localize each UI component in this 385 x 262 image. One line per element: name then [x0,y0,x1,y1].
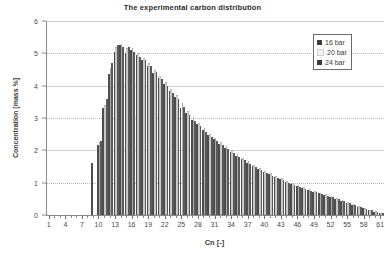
y-tick-label: 6 [12,18,38,25]
x-tick-label: 43 [277,221,285,228]
x-tick-label: 58 [360,221,368,228]
x-tick-mark [137,215,138,218]
x-tick-mark [98,215,99,219]
y-tick-label: 0 [12,212,38,219]
y-tick-label: 5 [12,50,38,57]
x-tick-mark [143,215,144,218]
x-tick-label: 40 [260,221,268,228]
x-tick-label: 19 [144,221,152,228]
x-tick-mark [253,215,254,218]
x-tick-mark [93,215,94,218]
x-tick-mark [104,215,105,218]
x-tick-label: 13 [111,221,119,228]
x-tick-label: 25 [177,221,185,228]
x-tick-label: 55 [343,221,351,228]
legend-label: 16 bar [325,39,345,46]
x-tick-mark [380,215,381,219]
x-tick-mark [336,215,337,218]
x-tick-label: 34 [227,221,235,228]
x-tick-mark [54,215,55,218]
x-tick-mark [115,215,116,219]
x-tick-mark [259,215,260,218]
x-tick-mark [297,215,298,219]
x-tick-mark [132,215,133,219]
x-tick-label: 61 [376,221,384,228]
x-tick-mark [342,215,343,218]
x-tick-mark [215,215,216,219]
x-tick-mark [369,215,370,218]
x-tick-mark [198,215,199,219]
x-tick-mark [126,215,127,218]
x-tick-mark [292,215,293,218]
x-tick-mark [110,215,111,218]
x-tick-mark [303,215,304,218]
x-tick-mark [203,215,204,218]
x-tick-label: 16 [128,221,136,228]
x-tick-mark [76,215,77,218]
x-tick-mark [364,215,365,219]
x-tick-mark [187,215,188,218]
x-tick-mark [60,215,61,218]
x-tick-label: 37 [244,221,252,228]
x-tick-mark [286,215,287,218]
x-tick-mark [209,215,210,218]
legend-swatch-icon [317,60,322,65]
x-tick-mark [71,215,72,218]
legend-item: 24 bar [317,57,347,67]
legend-swatch-icon [317,49,324,56]
y-axis: 0123456 [0,21,46,215]
x-tick-mark [65,215,66,219]
x-tick-mark [176,215,177,218]
x-axis-title: Cn [-] [46,238,383,247]
y-tick-label: 3 [12,115,38,122]
x-tick-mark [226,215,227,218]
x-tick-mark [82,215,83,219]
y-tick-label: 4 [12,82,38,89]
x-tick-mark [248,215,249,219]
x-tick-label: 49 [310,221,318,228]
x-tick-mark [242,215,243,218]
x-tick-mark [170,215,171,218]
x-tick-mark [181,215,182,219]
x-tick-label: 22 [161,221,169,228]
x-tick-label: 10 [95,221,103,228]
chart-title: The experimental carbon distribution [0,3,385,12]
x-tick-mark [325,215,326,218]
y-tick-label: 2 [12,147,38,154]
x-tick-mark [148,215,149,219]
x-tick-label: 1 [47,221,51,228]
x-tick-mark [87,215,88,218]
x-tick-mark [331,215,332,219]
x-tick-label: 4 [63,221,67,228]
x-tick-mark [165,215,166,219]
x-tick-mark [264,215,265,219]
x-tick-label: 52 [327,221,335,228]
x-tick-mark [231,215,232,219]
chart-legend: 16 bar20 bar24 bar [313,34,352,70]
y-tick-label: 1 [12,179,38,186]
chart-figure: The experimental carbon distribution Con… [0,0,385,262]
x-tick-label: 28 [194,221,202,228]
x-tick-mark [358,215,359,218]
x-tick-mark [121,215,122,218]
x-tick-label: 46 [293,221,301,228]
x-tick-mark [314,215,315,219]
x-tick-mark [353,215,354,218]
x-tick-mark [375,215,376,218]
x-tick-mark [308,215,309,218]
x-tick-mark [159,215,160,218]
x-tick-mark [192,215,193,218]
bar [91,163,93,215]
x-tick-mark [347,215,348,219]
x-tick-mark [49,215,50,219]
x-tick-mark [281,215,282,219]
x-tick-label: 31 [211,221,219,228]
x-tick-mark [154,215,155,218]
x-tick-mark [275,215,276,218]
x-tick-mark [270,215,271,218]
x-tick-mark [319,215,320,218]
x-tick-label: 7 [80,221,84,228]
legend-item: 20 bar [317,47,347,57]
legend-label: 24 bar [325,59,345,66]
legend-swatch-icon [317,40,322,45]
